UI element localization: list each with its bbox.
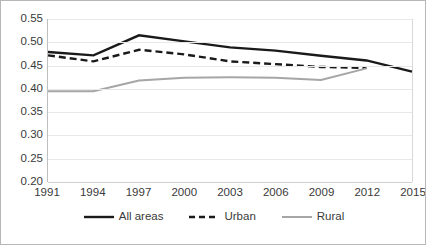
x-axis-tick-label: 1994	[80, 187, 106, 199]
y-axis-tick-label: 0.30	[3, 130, 43, 142]
gridline	[48, 135, 412, 136]
x-axis-tick-label: 2003	[217, 187, 243, 199]
x-axis-tick-label: 1991	[34, 187, 60, 199]
chart-legend: All areasUrbanRural	[1, 211, 426, 223]
plot-area	[47, 19, 413, 182]
y-axis: 0.550.500.450.400.350.300.250.20	[1, 19, 43, 182]
legend-label: Rural	[317, 211, 344, 223]
legend-item-urban[interactable]: Urban	[189, 211, 255, 223]
y-axis-tick-label: 0.50	[3, 37, 43, 49]
gridline	[48, 19, 412, 20]
legend-label: Urban	[224, 211, 255, 223]
solid-gray-line-icon	[282, 212, 312, 222]
line-chart-figure: 0.550.500.450.400.350.300.250.20 1991199…	[0, 0, 426, 245]
y-axis-tick-label: 0.35	[3, 106, 43, 118]
legend-item-rural[interactable]: Rural	[282, 211, 344, 223]
x-axis: 199119941997200020032006200920122015	[47, 187, 413, 205]
gridline	[48, 159, 412, 160]
x-axis-tick-label: 2015	[400, 187, 426, 199]
series-line-rural	[48, 68, 367, 91]
gridline	[48, 89, 412, 90]
y-axis-tick-label: 0.25	[3, 153, 43, 165]
legend-label: All areas	[119, 211, 164, 223]
x-axis-tick-label: 2009	[309, 187, 335, 199]
series-layer	[48, 19, 412, 182]
gridline	[48, 42, 412, 43]
y-axis-tick-label: 0.55	[3, 13, 43, 25]
dashed-black-line-icon	[189, 212, 219, 222]
legend-item-all-areas[interactable]: All areas	[84, 211, 164, 223]
gridline	[48, 112, 412, 113]
x-axis-tick-label: 2012	[354, 187, 380, 199]
x-axis-tick-label: 2000	[171, 187, 197, 199]
gridline	[48, 182, 412, 183]
solid-black-line-icon	[84, 212, 114, 222]
gridline	[48, 66, 412, 67]
x-axis-tick-label: 2006	[263, 187, 289, 199]
x-axis-tick-label: 1997	[126, 187, 152, 199]
y-axis-tick-label: 0.40	[3, 83, 43, 95]
y-axis-tick-label: 0.45	[3, 60, 43, 72]
